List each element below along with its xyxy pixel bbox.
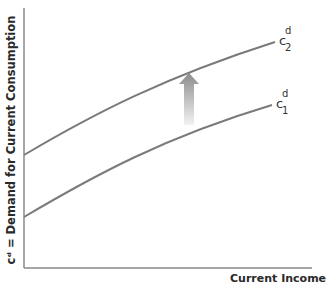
label-c1d-sup: d xyxy=(282,88,288,99)
label-c2d-sub: 2 xyxy=(285,42,291,53)
label-c1d: c d 1 xyxy=(276,96,283,111)
x-axis-label: Current Income xyxy=(230,272,326,285)
label-c2d-sup: d xyxy=(285,25,291,36)
y-axis-label-text: cᵈ = Demand for Current Consumption xyxy=(4,16,18,265)
y-axis-label: cᵈ = Demand for Current Consumption xyxy=(0,0,22,280)
label-c2d: c d 2 xyxy=(279,33,286,48)
shift-up-arrow-icon xyxy=(179,73,199,125)
label-c1d-sub: 1 xyxy=(282,105,288,116)
curve-c1d xyxy=(24,105,272,217)
curve-c2d xyxy=(24,42,275,155)
